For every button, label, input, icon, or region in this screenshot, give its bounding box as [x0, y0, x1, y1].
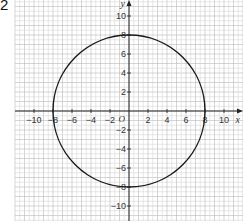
svg-text:−10: −10	[111, 201, 126, 211]
svg-text:−4: −4	[116, 144, 126, 154]
axes	[15, 0, 243, 221]
svg-text:O: O	[119, 114, 126, 124]
svg-text:x: x	[235, 114, 241, 125]
svg-text:6: 6	[121, 49, 126, 59]
svg-text:2: 2	[121, 87, 126, 97]
svg-text:4: 4	[164, 115, 169, 125]
svg-text:10: 10	[116, 11, 126, 21]
circle-graph: −10−8−6−4−2246810−10−8−6−4−2246810Oxy	[0, 0, 243, 221]
svg-text:2: 2	[145, 115, 150, 125]
svg-text:−2: −2	[105, 115, 115, 125]
svg-text:y: y	[120, 0, 126, 9]
svg-text:6: 6	[183, 115, 188, 125]
svg-text:−6: −6	[67, 115, 77, 125]
svg-text:−2: −2	[116, 125, 126, 135]
svg-text:−6: −6	[116, 163, 126, 173]
svg-text:4: 4	[121, 68, 126, 78]
svg-text:−4: −4	[86, 115, 96, 125]
svg-text:−10: −10	[26, 115, 41, 125]
svg-text:10: 10	[219, 115, 229, 125]
